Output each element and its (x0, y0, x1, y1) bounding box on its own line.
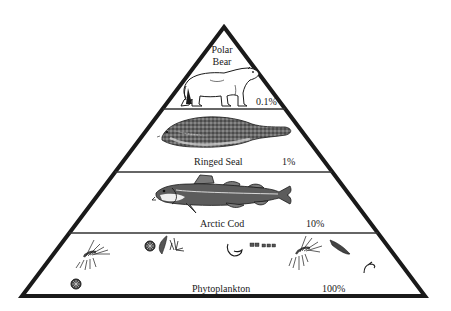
ringed-seal-percent: 1% (282, 156, 295, 167)
polar-bear-percent: 0.1% (256, 96, 277, 107)
diatom-wheel-icon (145, 241, 155, 251)
polar-bear-label-line1: Polar (211, 44, 232, 55)
arctic-cod-percent: 10% (306, 218, 324, 229)
ringed-seal-label: Ringed Seal (194, 156, 243, 167)
food-pyramid-diagram: Polar Bear 0.1% Ringed Seal 1% Arctic Co… (0, 0, 451, 311)
phytoplankton-percent: 100% (322, 283, 345, 294)
diatom-wheel-small-icon (71, 279, 81, 289)
polar-bear-label-line2: Bear (213, 56, 232, 67)
arctic-cod-label: Arctic Cod (200, 218, 244, 229)
phytoplankton-label: Phytoplankton (192, 283, 250, 294)
